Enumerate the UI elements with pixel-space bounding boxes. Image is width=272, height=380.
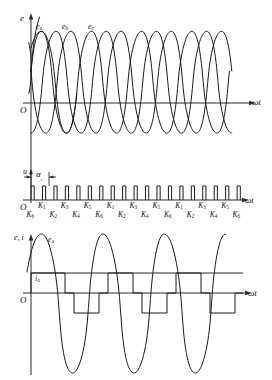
top-origin-label: O: [20, 106, 27, 115]
gate-pulse: [203, 186, 206, 200]
switch-label-upper: K1: [175, 202, 183, 210]
gate-pulse: [123, 186, 126, 200]
gate-pulse: [134, 186, 137, 200]
gate-pulse: [100, 186, 103, 200]
switch-label-upper: K3: [198, 202, 206, 210]
switch-label-lower: K6: [95, 211, 103, 219]
emf-phase-c-curve-main: [31, 31, 232, 133]
switch-label-lower: K4: [141, 211, 149, 219]
emf-phase-a-curve: [31, 31, 229, 133]
bottom-x-axis-label: ωt: [248, 289, 257, 298]
switch-label-lower: K6: [233, 211, 241, 219]
panel-bottom-waveforms: [27, 234, 243, 373]
gate-pulse: [54, 186, 57, 200]
switch-label-upper: K1: [38, 202, 46, 210]
switch-label-lower: K4: [72, 211, 80, 219]
gate-pulse: [65, 186, 68, 200]
middle-y-axis-label: u: [23, 168, 27, 176]
middle-x-axis-label: ωt: [245, 196, 254, 205]
top-y-axis-arrowhead: [29, 13, 33, 20]
switch-label-lower: K6: [27, 211, 35, 219]
alpha-dim-right-arrow: [49, 176, 54, 179]
switch-label-upper: K5: [84, 202, 92, 210]
panel-top-waveforms: [29, 17, 232, 180]
emf-phase-c-label: ec: [88, 23, 94, 32]
gate-pulse: [77, 186, 80, 200]
emf-phase-b-label: eb: [62, 23, 68, 32]
gate-pulse-train: [31, 186, 240, 200]
gate-pulse: [168, 186, 171, 200]
gate-pulse: [180, 186, 183, 200]
phase-a-current-label: ia: [35, 275, 40, 284]
gate-pulse: [237, 186, 240, 200]
gate-pulse: [191, 186, 194, 200]
alpha-dim-left-arrow: [27, 176, 32, 179]
gate-pulse: [226, 186, 229, 200]
switch-label-upper: K3: [61, 202, 69, 210]
switch-label-upper: K5: [152, 202, 160, 210]
switch-label-lower: K2: [49, 211, 57, 219]
panel-top-axes: [23, 13, 256, 172]
bottom-origin-label: O: [20, 296, 27, 305]
waveform-figure-svg: [0, 0, 272, 380]
gate-pulse: [88, 186, 91, 200]
switch-label-upper: K3: [130, 202, 138, 210]
bottom-y-axis-label: e, i: [14, 234, 24, 242]
bottom-y-axis-arrowhead: [29, 234, 33, 241]
gate-pulse: [111, 186, 114, 200]
emf-phase-a-label: ea: [36, 23, 42, 32]
phase-a-emf-curve: [27, 234, 226, 373]
gate-pulse: [214, 186, 217, 200]
switch-label-lower: K6: [164, 211, 172, 219]
switch-label-upper: K5: [221, 202, 229, 210]
figure-root: e O ωt ea eb ec u α O ωt K1K3K5K1K3K5K1K…: [0, 0, 272, 380]
switch-label-lower: K2: [187, 211, 195, 219]
switch-label-lower: K4: [210, 211, 218, 219]
gate-pulse: [31, 186, 34, 200]
top-x-axis-label: ωt: [252, 98, 261, 107]
top-y-axis-label: e: [20, 14, 24, 23]
switch-label-upper: K1: [107, 202, 115, 210]
panel-bottom-axes: [23, 234, 252, 375]
switch-label-lower: K2: [118, 211, 126, 219]
gate-pulse: [157, 186, 160, 200]
gate-pulse: [146, 186, 149, 200]
gate-pulse: [42, 186, 45, 200]
phase-a-emf-label: ea: [48, 236, 54, 245]
firing-angle-label: α: [36, 170, 41, 179]
